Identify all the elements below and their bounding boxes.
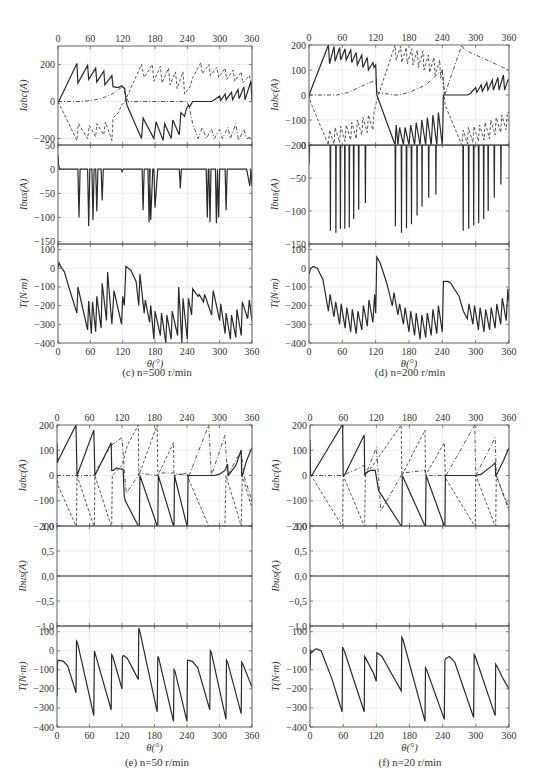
chart-panel-c: −2000200Iabc(A)−150−100−50050Ibus(A)−400…	[18, 33, 260, 370]
x-tick-label-top: 360	[245, 412, 260, 423]
x-tick-label-top: 180	[148, 33, 163, 44]
y-tick-label: 100	[39, 445, 54, 456]
x-tick-label: 360	[245, 730, 260, 741]
y-tick-label: −0,5	[36, 596, 54, 607]
x-tick-label: 0	[308, 730, 313, 741]
x-tick-label: 120	[369, 730, 384, 741]
x-tick-label: 360	[502, 346, 517, 357]
x-tick-label-top: 240	[435, 412, 450, 423]
y-tick-label: −100	[285, 206, 306, 217]
y-tick-label: 100	[291, 65, 306, 76]
x-tick-label-top: 360	[245, 33, 260, 44]
y-axis-label: Ibus(A)	[269, 178, 281, 211]
y-tick-label: −100	[34, 212, 55, 223]
caption-panel-f: (f) n=20 r/min	[378, 756, 441, 768]
subplot-2: −1,0−0,50,00,51,0Ibus(A)	[270, 521, 509, 632]
subplot-1: −2000200Iabc(A)	[18, 46, 252, 145]
y-tick-label: −100	[285, 281, 306, 292]
x-tick-label-top: 0	[308, 412, 313, 423]
y-tick-label: 0	[49, 470, 54, 481]
subplot-3: −400−300−200−1000100T(N·m)	[18, 244, 252, 349]
x-tick-label-top: 120	[115, 33, 130, 44]
x-tick-label: 300	[468, 346, 483, 357]
x-tick-label-top: 180	[402, 412, 417, 423]
y-tick-label: 0	[302, 645, 307, 656]
y-tick-label: 0,0	[295, 571, 308, 582]
subplot-2: −150−100−500Ibus(A)	[269, 140, 509, 250]
y-axis-label: Ibus(A)	[17, 560, 29, 593]
x-tick-label-top: 120	[115, 412, 130, 423]
x-tick-label-top: 300	[468, 32, 483, 43]
x-tick-label-top: 0	[55, 412, 60, 423]
y-tick-label: 1,0	[295, 521, 308, 532]
y-axis-label: Ibus(A)	[18, 178, 30, 211]
y-tick-label: −100	[286, 664, 307, 675]
x-tick-label: 240	[435, 730, 450, 741]
y-tick-label: 1,0	[42, 521, 55, 532]
y-axis-label: Ibus(A)	[270, 560, 282, 593]
x-tick-label: 300	[212, 346, 227, 357]
y-tick-label: 50	[45, 140, 55, 151]
y-tick-label: 100	[39, 626, 54, 637]
figure: −2000200Iabc(A)−150−100−50050Ibus(A)−400…	[0, 0, 534, 775]
x-tick-label: 300	[212, 730, 227, 741]
x-axis-label: θ(°)	[401, 742, 418, 754]
x-tick-label-top: 360	[502, 32, 517, 43]
y-tick-label: −200	[286, 683, 307, 694]
y-axis-label: Iabc(A)	[17, 459, 29, 493]
x-tick-label: 180	[148, 346, 163, 357]
subplot-2: −1,0−0,50,00,51,0Ibus(A)	[17, 521, 252, 632]
y-tick-label: 0	[50, 164, 55, 175]
x-tick-label-top: 120	[369, 412, 384, 423]
y-tick-label: −100	[34, 281, 55, 292]
x-tick-label-top: 300	[212, 33, 227, 44]
x-tick-label-top: 180	[147, 412, 162, 423]
y-tick-label: −200	[33, 683, 54, 694]
x-axis-label: θ(°)	[146, 742, 163, 754]
subplot-2: −150−100−50050Ibus(A)	[18, 140, 252, 248]
subplot-1: −200−1000100200Iabc(A)	[269, 40, 509, 151]
y-tick-label: 0	[302, 470, 307, 481]
y-tick-label: −300	[33, 702, 54, 713]
y-tick-label: −200	[34, 300, 55, 311]
y-axis-label: Iabc(A)	[269, 78, 281, 112]
subplot-3: −400−300−200−1000100T(N·m)	[17, 626, 252, 733]
x-tick-label-top: 300	[212, 412, 227, 423]
x-tick-label: 0	[56, 346, 61, 357]
y-tick-label: −300	[286, 702, 307, 713]
caption-panel-c: (c) n=500 r/min	[122, 366, 192, 378]
subplot-1: −200−1000100200Iabc(A)	[270, 420, 509, 532]
x-tick-label: 240	[180, 730, 195, 741]
caption-panel-e: (e) n=50 r/min	[125, 756, 189, 768]
y-tick-label: −300	[34, 319, 55, 330]
y-tick-label: −100	[33, 495, 54, 506]
x-tick-label-top: 60	[85, 412, 95, 423]
y-tick-label: 0	[301, 140, 306, 151]
x-tick-label-top: 240	[435, 32, 450, 43]
x-tick-label: 120	[115, 730, 130, 741]
y-tick-label: −400	[34, 338, 55, 349]
x-tick-label: 120	[115, 346, 130, 357]
y-axis-label: T(N·m)	[17, 661, 29, 692]
x-tick-label-top: 240	[180, 33, 195, 44]
x-tick-label-top: 60	[338, 412, 348, 423]
subplot-3: −400−300−200−1000100T(N·m)	[269, 244, 509, 349]
y-tick-label: 0	[50, 96, 55, 107]
y-tick-label: −100	[33, 664, 54, 675]
y-axis-label: Iabc(A)	[18, 79, 30, 113]
x-tick-label-top: 360	[502, 412, 517, 423]
y-axis-label: T(N·m)	[269, 278, 281, 309]
y-tick-label: 200	[291, 40, 306, 51]
chart-panel-e: −200−1000100200Iabc(A)−1,0−0,50,00,51,0I…	[17, 412, 260, 754]
y-tick-label: 0,0	[42, 571, 55, 582]
y-tick-label: 0,5	[295, 546, 308, 557]
y-tick-label: −50	[39, 188, 55, 199]
x-tick-label-top: 0	[56, 33, 61, 44]
chart-panel-d: −200−1000100200Iabc(A)−150−100−500Ibus(A…	[269, 32, 517, 370]
y-tick-label: −400	[286, 722, 307, 733]
y-tick-label: −100	[286, 495, 307, 506]
x-tick-label-top: 240	[180, 412, 195, 423]
y-tick-label: 100	[292, 626, 307, 637]
y-tick-label: 0	[301, 90, 306, 101]
y-tick-label: −200	[285, 300, 306, 311]
